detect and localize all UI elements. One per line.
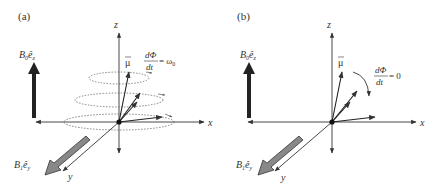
equation-a: dΦ dt = ω0: [144, 50, 175, 72]
eq-denominator-a: dt: [146, 62, 154, 72]
y-label-b: y: [280, 172, 286, 183]
panel-label-b: (b): [237, 10, 250, 23]
eq-denominator-b: dt: [376, 77, 384, 87]
mu-vector-b: [332, 72, 342, 122]
b0-label-a: B0êz: [19, 49, 36, 61]
panel-b: (b) z x y μ dΦ dt = 0: [236, 10, 425, 183]
b1-label-a: B1êy: [14, 159, 31, 171]
mu-label-b: μ: [338, 57, 343, 68]
panel-a: (a) z x y: [14, 10, 213, 182]
eq-rhs-b: = 0: [389, 71, 401, 81]
mu-label-a: μ: [125, 57, 130, 68]
z-label-b: z: [326, 19, 331, 30]
b1-label-b: B1êy: [236, 159, 253, 171]
moment-vectors-b: [332, 72, 375, 122]
eq-rhs-a: = ω0: [159, 56, 175, 67]
eq-numerator-a: dΦ: [145, 50, 157, 60]
b1-field-arrow-a: B1êy: [14, 136, 90, 175]
y-axis-b: [275, 122, 332, 171]
x-label-b: x: [419, 117, 425, 128]
origin-a: [116, 119, 121, 124]
equation-b: dΦ dt = 0: [374, 65, 401, 87]
figure: (a) z x y: [0, 0, 445, 186]
x-label-a: x: [207, 117, 213, 128]
y-label-a: y: [67, 171, 73, 182]
panel-label-a: (a): [18, 10, 31, 23]
y-axis-a: [63, 122, 119, 171]
b0-label-b: B0êz: [240, 49, 257, 61]
moment-vectors-a: [119, 72, 162, 122]
origin-b: [329, 119, 334, 124]
b0-field-arrow-b: B0êz: [240, 49, 257, 118]
eq-numerator-b: dΦ: [375, 65, 387, 75]
b0-field-arrow-a: B0êz: [19, 49, 40, 118]
z-label-a: z: [113, 19, 118, 30]
